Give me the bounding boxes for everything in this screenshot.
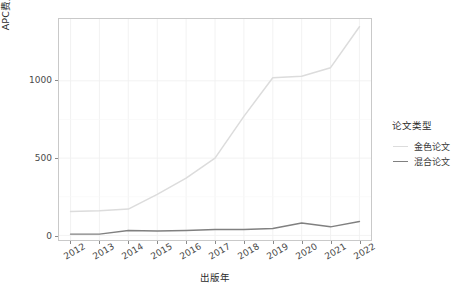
x-tick-label: 2020 [294,241,319,261]
x-tick-mark [215,241,216,244]
x-tick-mark [273,241,274,244]
x-tick-mark [302,241,303,244]
x-tick-mark [186,241,187,244]
x-tick-label: 2013 [91,241,116,261]
legend-line-icon [392,156,409,168]
y-tick-label: 1000 [29,76,52,85]
y-tick-label: 500 [35,154,52,163]
x-tick-label: 2022 [352,241,377,261]
legend-item[interactable]: 混合论文 [392,154,468,169]
x-tick-mark [331,241,332,244]
legend: 论文类型 金色论文混合论文 [392,118,468,169]
chart-figure: 05001000 2012201320142015201620172018201… [0,0,468,287]
y-tick-mark [55,80,58,81]
plot-panel [58,18,372,241]
x-tick-label: 2016 [178,241,203,261]
x-tick-mark [70,241,71,244]
y-tick-label: 0 [46,232,52,241]
x-tick-label: 2017 [207,241,232,261]
x-tick-label: 2021 [323,241,348,261]
data-lines [59,19,371,240]
y-tick-mark [55,158,58,159]
legend-line-icon [392,141,409,153]
x-tick-label: 2015 [149,241,174,261]
y-axis-title: APC费用（万元） [0,0,12,60]
legend-item-label: 金色论文 [414,140,450,153]
legend-entries: 金色论文混合论文 [392,139,468,169]
legend-item-label: 混合论文 [414,155,450,168]
x-tick-label: 2018 [236,241,261,261]
y-tick-mark [55,236,58,237]
x-tick-label: 2014 [120,241,145,261]
legend-item[interactable]: 金色论文 [392,139,468,154]
x-tick-mark [128,241,129,244]
x-tick-label: 2019 [265,241,290,261]
x-tick-mark [157,241,158,244]
x-tick-mark [99,241,100,244]
x-tick-label: 2012 [62,241,87,261]
x-tick-mark [244,241,245,244]
x-axis-title: 出版年 [58,270,372,284]
x-tick-mark [360,241,361,244]
legend-title: 论文类型 [392,118,468,132]
